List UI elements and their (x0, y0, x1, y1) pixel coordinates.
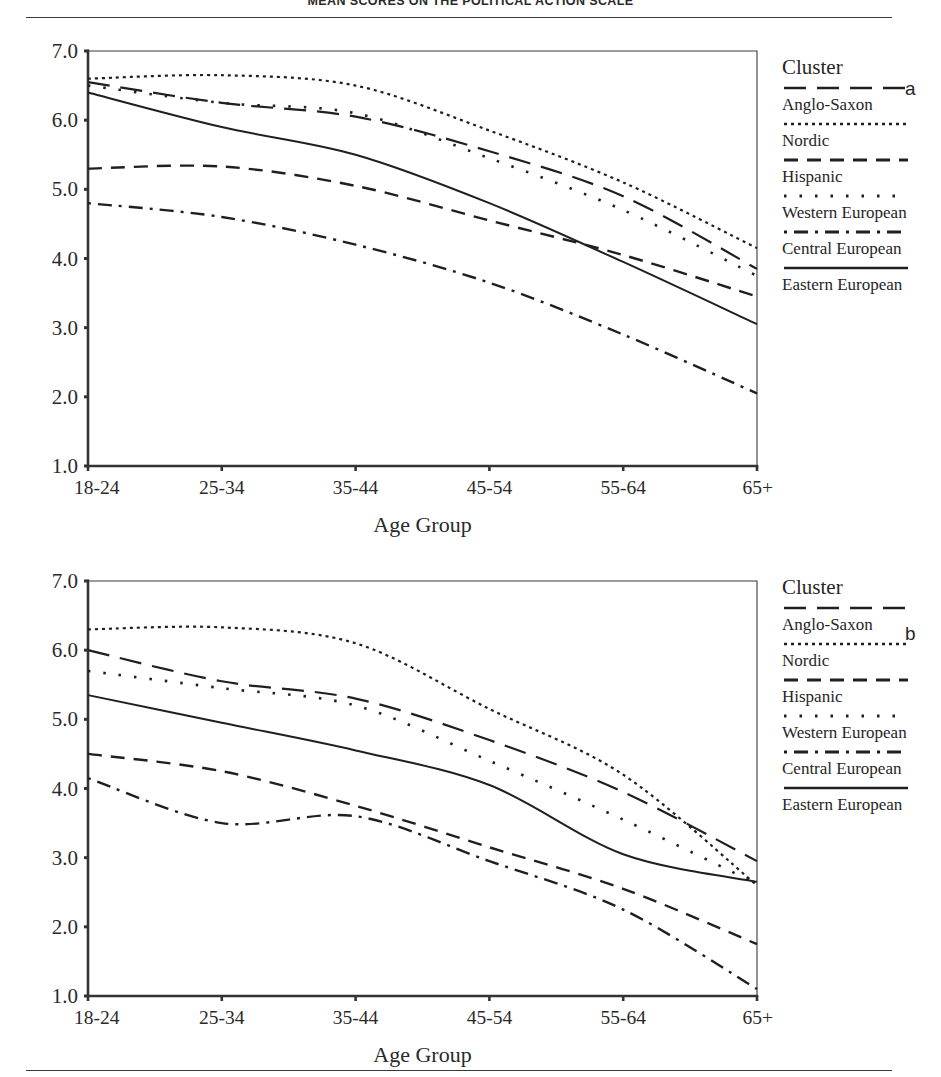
series-line-western-european (88, 86, 757, 276)
legend-label: Western European (782, 722, 941, 744)
legend-item[interactable]: Central European (782, 745, 941, 780)
y-tick-label: 3.0 (52, 316, 78, 340)
y-tick-label: 4.0 (52, 777, 78, 801)
legend-label: Eastern European (782, 274, 941, 296)
x-tick-label: 55-64 (600, 1007, 646, 1028)
y-tick-label: 7.0 (52, 569, 78, 593)
page-title: MEAN SCORES ON THE POLITICAL ACTION SCAL… (0, 0, 941, 8)
chart-panel-a: 1.02.03.04.05.06.07.018-2425-3435-4445-5… (0, 30, 790, 540)
x-tick-label: 45-54 (467, 1007, 513, 1028)
legend-swatch-hispanic (782, 673, 910, 686)
legend-title: Cluster (782, 576, 941, 598)
legend-item[interactable]: Western European (782, 189, 941, 224)
legend-swatch-western-european (782, 189, 910, 202)
legend-item[interactable]: Hispanic (782, 673, 941, 708)
y-tick-label: 5.0 (52, 177, 78, 201)
legend-item[interactable]: Nordic (782, 637, 941, 672)
legend-item[interactable]: Eastern European (782, 261, 941, 296)
legend-label: Central European (782, 238, 941, 260)
x-tick-label: 25-34 (199, 477, 245, 498)
x-tick-label: 35-44 (333, 1007, 379, 1028)
legend-swatch-eastern-european (782, 781, 910, 794)
x-tick-label: 25-34 (199, 1007, 245, 1028)
legend-label: Anglo-Saxon (782, 614, 941, 636)
x-tick-label: 18-24 (74, 1007, 120, 1028)
x-tick-label: 35-44 (333, 477, 379, 498)
legend-item[interactable]: Nordic (782, 117, 941, 152)
y-tick-label: 5.0 (52, 707, 78, 731)
panel-letter-b: b (905, 623, 916, 645)
line-chart-b: 1.02.03.04.05.06.07.018-2425-3435-4445-5… (0, 560, 790, 1070)
bottom-rule (26, 1070, 892, 1071)
series-line-nordic (88, 75, 757, 248)
y-tick-label: 2.0 (52, 915, 78, 939)
legend-b: Cluster Anglo-SaxonNordicHispanicWestern… (782, 576, 941, 817)
legend-label: Nordic (782, 650, 941, 672)
legend-label: Central European (782, 758, 941, 780)
legend-swatch-nordic (782, 117, 910, 130)
legend-swatch-central-european (782, 745, 910, 758)
y-tick-label: 6.0 (52, 108, 78, 132)
y-tick-label: 2.0 (52, 385, 78, 409)
series-line-central-european (88, 778, 757, 989)
series-line-hispanic (88, 754, 757, 944)
legend-swatch-nordic (782, 637, 910, 650)
y-tick-label: 7.0 (52, 39, 78, 63)
legend-label: Eastern European (782, 794, 941, 816)
legend-label: Nordic (782, 130, 941, 152)
series-line-eastern-european (88, 695, 757, 882)
y-tick-label: 6.0 (52, 638, 78, 662)
legend-item[interactable]: Western European (782, 709, 941, 744)
legend-item[interactable]: Hispanic (782, 153, 941, 188)
legend-label: Anglo-Saxon (782, 94, 941, 116)
legend-swatch-eastern-european (782, 261, 910, 274)
series-line-eastern-european (88, 93, 757, 325)
x-tick-label: 45-54 (467, 477, 513, 498)
top-rule (26, 17, 892, 18)
x-tick-label: 65+ (743, 477, 774, 498)
axis-lines (88, 581, 757, 996)
series-line-central-european (88, 203, 757, 393)
line-chart-a: 1.02.03.04.05.06.07.018-2425-3435-4445-5… (0, 30, 790, 540)
x-tick-label: 65+ (743, 1007, 774, 1028)
x-axis-title: Age Group (373, 512, 471, 537)
x-tick-label: 55-64 (600, 477, 646, 498)
legend-item[interactable]: Eastern European (782, 781, 941, 816)
x-tick-label: 18-24 (74, 477, 120, 498)
axis-lines (88, 51, 757, 466)
plot-frame (88, 51, 757, 466)
legend-swatch-western-european (782, 709, 910, 722)
y-tick-label: 1.0 (52, 454, 78, 478)
legend-item[interactable]: Anglo-Saxon (782, 601, 941, 636)
legend-swatch-hispanic (782, 153, 910, 166)
legend-swatch-anglo-saxon (782, 601, 910, 614)
panel-letter-a: a (905, 78, 916, 100)
legend-label: Hispanic (782, 166, 941, 188)
series-line-nordic (88, 627, 757, 886)
legend-item[interactable]: Central European (782, 225, 941, 260)
legend-item[interactable]: Anglo-Saxon (782, 81, 941, 116)
series-line-anglo-saxon (88, 82, 757, 269)
y-tick-label: 4.0 (52, 247, 78, 271)
y-tick-label: 1.0 (52, 984, 78, 1008)
legend-swatch-anglo-saxon (782, 81, 910, 94)
x-axis-title: Age Group (373, 1042, 471, 1067)
plot-frame (88, 581, 757, 996)
legend-label: Western European (782, 202, 941, 224)
chart-panel-b: 1.02.03.04.05.06.07.018-2425-3435-4445-5… (0, 560, 790, 1070)
legend-a: Cluster Anglo-SaxonNordicHispanicWestern… (782, 56, 941, 297)
legend-label: Hispanic (782, 686, 941, 708)
figure-page: MEAN SCORES ON THE POLITICAL ACTION SCAL… (0, 0, 941, 1077)
y-tick-label: 3.0 (52, 846, 78, 870)
series-line-western-european (88, 671, 757, 884)
series-line-anglo-saxon (88, 650, 757, 861)
legend-title: Cluster (782, 56, 941, 78)
legend-swatch-central-european (782, 225, 910, 238)
